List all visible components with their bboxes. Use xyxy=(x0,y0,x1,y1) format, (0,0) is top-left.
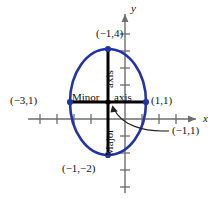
label-right-covertex: (1,1) xyxy=(151,95,172,106)
label-major-axis-word1: Major xyxy=(104,129,115,156)
x-axis-arrowhead xyxy=(188,116,196,123)
label-center-point: (−1,1) xyxy=(172,125,199,136)
point-right-covertex xyxy=(143,99,149,105)
label-major-axis-word2: axis xyxy=(104,70,115,88)
point-top-vertex xyxy=(105,46,111,52)
label-minor-axis-word2: axis xyxy=(114,92,132,103)
label-bottom-vertex: (−1,−2) xyxy=(62,163,95,174)
label-left-covertex: (−3,1) xyxy=(10,95,37,106)
ellipse-figure: (−1,4) (−1,−2) (−3,1) (1,1) (−1,1) Minor… xyxy=(0,0,222,199)
x-axis-label: x xyxy=(203,112,208,124)
label-top-vertex: (−1,4) xyxy=(96,28,123,39)
y-axis-label: y xyxy=(131,2,136,14)
y-axis-arrowhead xyxy=(122,14,129,22)
label-minor-axis-word1: Minor xyxy=(72,92,100,103)
center-leader-arrow xyxy=(110,105,169,131)
point-center xyxy=(105,99,110,104)
